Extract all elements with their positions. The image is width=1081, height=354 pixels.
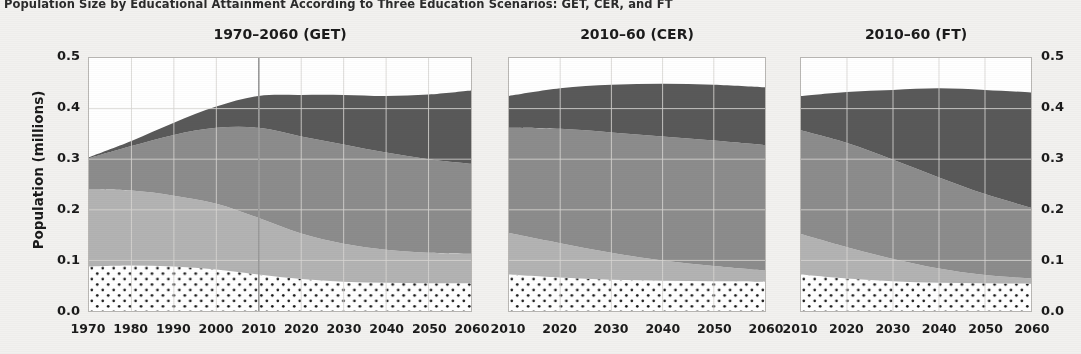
x-tick-label: 2020 (537, 321, 583, 336)
x-tick-label: 2040 (640, 321, 686, 336)
x-tick-label: 2020 (278, 321, 324, 336)
plot-area (508, 57, 766, 312)
y-tick-label-left: 0.5 (46, 48, 80, 63)
y-tick-label-right: 0.3 (1041, 150, 1075, 165)
chart-panel: 1970–2060 (GET) (88, 57, 472, 312)
panel-title: 2010–60 (FT) (800, 26, 1032, 42)
y-tick-label-left: 0.4 (46, 99, 80, 114)
x-tick-label: 1990 (150, 321, 196, 336)
figure-root: Population Size by Educational Attainmen… (0, 0, 1081, 354)
figure-title: Population Size by Educational Attainmen… (4, 0, 673, 11)
x-tick-label: 2010 (777, 321, 823, 336)
x-tick-label: 2040 (364, 321, 410, 336)
panel-title: 1970–2060 (GET) (88, 26, 472, 42)
x-tick-label: 2050 (963, 321, 1009, 336)
chart-panel: 2010–60 (CER) (508, 57, 766, 312)
y-tick-label-right: 0.1 (1041, 252, 1075, 267)
x-tick-label: 2050 (691, 321, 737, 336)
x-tick-label: 2030 (321, 321, 367, 336)
y-tick-label-right: 0.0 (1041, 303, 1075, 318)
x-tick-label: 1980 (108, 321, 154, 336)
y-tick-label-left: 0.0 (46, 303, 80, 318)
y-tick-label-right: 0.5 (1041, 48, 1075, 63)
x-tick-label: 2000 (193, 321, 239, 336)
x-tick-label: 2040 (916, 321, 962, 336)
x-tick-label: 2010 (236, 321, 282, 336)
x-tick-label: 1970 (65, 321, 111, 336)
plot-area (88, 57, 472, 312)
plot-area (800, 57, 1032, 312)
y-tick-label-left: 0.3 (46, 150, 80, 165)
x-tick-label: 2050 (406, 321, 452, 336)
x-tick-label: 2010 (485, 321, 531, 336)
x-tick-label: 2030 (588, 321, 634, 336)
chart-panel: 2010–60 (FT) (800, 57, 1032, 312)
panel-title: 2010–60 (CER) (508, 26, 766, 42)
y-tick-label-right: 0.2 (1041, 201, 1075, 216)
x-tick-label: 2030 (870, 321, 916, 336)
y-tick-label-left: 0.2 (46, 201, 80, 216)
x-tick-label: 2020 (823, 321, 869, 336)
y-axis-label: Population (millions) (30, 90, 46, 250)
y-tick-label-right: 0.4 (1041, 99, 1075, 114)
y-tick-label-left: 0.1 (46, 252, 80, 267)
x-tick-label: 2060 (1009, 321, 1055, 336)
